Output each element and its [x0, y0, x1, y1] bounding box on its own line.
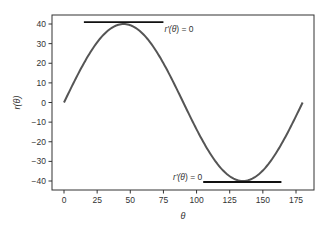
y-tick-label: 0: [41, 98, 46, 108]
y-tick-label: 40: [37, 19, 47, 29]
x-tick-label: 100: [189, 195, 203, 205]
x-axis-label: θ: [181, 211, 186, 221]
x-tick-label: 0: [62, 195, 67, 205]
y-tick-label: −30: [32, 156, 47, 166]
y-tick-label: 20: [37, 58, 47, 68]
x-tick-label: 25: [92, 195, 102, 205]
annotation-label-min: r′(θ) = 0: [173, 172, 202, 182]
annotation-label-max: r′(θ) = 0: [164, 24, 193, 34]
y-tick-label: 30: [37, 39, 47, 49]
x-tick-label: 150: [256, 195, 270, 205]
x-tick-label: 175: [289, 195, 303, 205]
chart: r′(θ) = 0r′(θ) = 0 0255075100125150175 −…: [0, 0, 328, 233]
y-tick-label: −40: [32, 176, 47, 186]
x-tick-label: 75: [159, 195, 169, 205]
y-tick-label: −20: [32, 137, 47, 147]
x-tick-label: 125: [223, 195, 237, 205]
y-tick-label: −10: [32, 117, 47, 127]
y-axis-label: r(θ): [12, 96, 22, 110]
x-tick-label: 50: [126, 195, 136, 205]
y-tick-label: 10: [37, 78, 47, 88]
